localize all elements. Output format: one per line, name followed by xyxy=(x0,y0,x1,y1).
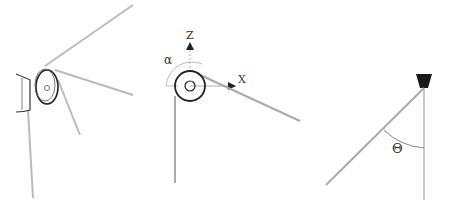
cable-angled xyxy=(326,88,424,185)
z-axis-arrow xyxy=(186,42,194,50)
panel-cable-anchor xyxy=(326,74,432,200)
panel-pulley-axes xyxy=(166,42,300,183)
pulley-rim xyxy=(35,69,55,101)
pulley-axle xyxy=(45,86,50,91)
alpha-label: α xyxy=(164,54,172,66)
theta-arc xyxy=(384,130,424,148)
cable-to-right xyxy=(198,74,300,121)
cable-upper xyxy=(45,5,133,66)
anchor-block xyxy=(416,74,432,88)
cable-down xyxy=(28,110,33,198)
diagram-canvas xyxy=(0,0,450,211)
bracket xyxy=(16,74,30,112)
theta-label: Θ xyxy=(392,142,403,155)
panel-pulley-perspective xyxy=(16,5,133,198)
cable-diagonal xyxy=(58,80,80,135)
cable-right xyxy=(55,70,133,95)
z-axis-label: Z xyxy=(186,30,194,41)
x-axis-label: X xyxy=(238,74,246,85)
